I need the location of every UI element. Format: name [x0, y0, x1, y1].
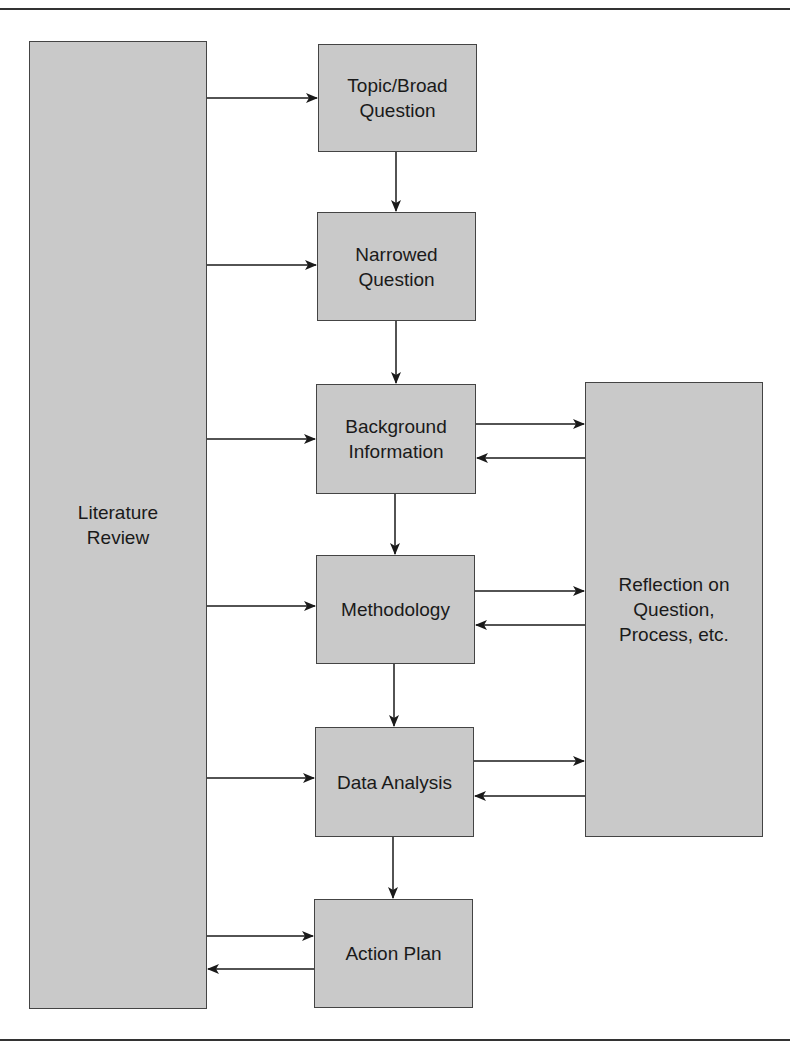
edge-layer [0, 0, 790, 1051]
